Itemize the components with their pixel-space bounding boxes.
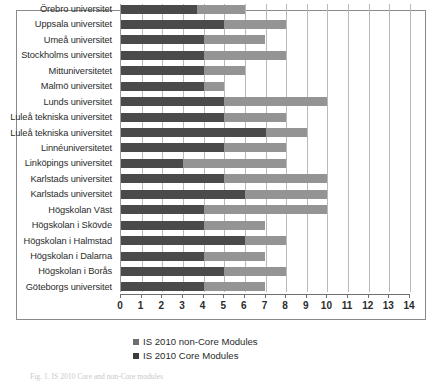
bar-row bbox=[121, 205, 409, 215]
bar-row bbox=[121, 220, 409, 230]
category-axis-labels: Örebro universitetUppsala universitetUme… bbox=[0, 4, 116, 292]
x-axis-tick bbox=[388, 294, 389, 298]
bar-segment-core bbox=[121, 20, 224, 29]
category-label: Malmö universitet bbox=[0, 81, 116, 91]
bar-segment-core bbox=[121, 282, 204, 291]
bar-segment-core bbox=[121, 205, 204, 214]
bar-segment-core bbox=[121, 221, 204, 230]
bar-segment-core bbox=[121, 5, 197, 14]
category-label: Örebro universitet bbox=[0, 4, 116, 14]
bar-row bbox=[121, 112, 409, 122]
category-label: Högskolan i Halmstad bbox=[0, 236, 116, 246]
x-axis-tick-label: 10 bbox=[321, 300, 332, 311]
bar-row bbox=[121, 128, 409, 138]
category-label: Högskolan Väst bbox=[0, 205, 116, 215]
legend-label: IS 2010 non-Core Modules bbox=[143, 336, 258, 347]
bar-segment-core bbox=[121, 190, 245, 199]
category-label: Mittuniversitetet bbox=[0, 66, 116, 76]
bar-segment-non-core bbox=[224, 20, 286, 29]
bar-segment-non-core bbox=[245, 190, 328, 199]
bar-segment-core bbox=[121, 128, 266, 137]
legend-label: IS 2010 Core Modules bbox=[143, 350, 238, 361]
bar-row bbox=[121, 4, 409, 14]
bar-row bbox=[121, 35, 409, 45]
category-label: Stockholms universitet bbox=[0, 50, 116, 60]
bar-segment-core bbox=[121, 82, 204, 91]
x-axis-tick-label: 8 bbox=[282, 300, 288, 311]
bar-row bbox=[121, 50, 409, 60]
bar-segment-core bbox=[121, 143, 224, 152]
bar-segment-core bbox=[121, 267, 224, 276]
bar-segment-core bbox=[121, 97, 224, 106]
category-label: Karlstads universitet bbox=[0, 174, 116, 184]
x-axis-tick-label: 13 bbox=[383, 300, 394, 311]
bar-segment-non-core bbox=[224, 174, 327, 183]
bar-row bbox=[121, 282, 409, 292]
category-label: Högskolan i Borås bbox=[0, 266, 116, 276]
x-axis: 01234567891011121314 bbox=[120, 294, 410, 320]
x-axis-tick-label: 4 bbox=[200, 300, 206, 311]
x-axis-tick bbox=[306, 294, 307, 298]
bar-row bbox=[121, 66, 409, 76]
category-label: Karlstads universitet bbox=[0, 189, 116, 199]
bar-segment-non-core bbox=[224, 113, 286, 122]
bar-segment-core bbox=[121, 252, 204, 261]
x-axis-tick bbox=[161, 294, 162, 298]
bar-segment-non-core bbox=[183, 159, 286, 168]
bar-segment-non-core bbox=[204, 252, 266, 261]
x-axis-tick-label: 7 bbox=[262, 300, 268, 311]
bar-segment-non-core bbox=[224, 143, 286, 152]
chart-legend: IS 2010 non-Core ModulesIS 2010 Core Mod… bbox=[133, 336, 258, 361]
x-axis-tick-label: 3 bbox=[179, 300, 185, 311]
x-axis-tick-label: 1 bbox=[138, 300, 144, 311]
plot-area bbox=[120, 4, 409, 292]
bar-row bbox=[121, 251, 409, 261]
legend-item: IS 2010 non-Core Modules bbox=[133, 336, 258, 347]
bar-segment-non-core bbox=[204, 221, 266, 230]
bar-row bbox=[121, 236, 409, 246]
x-axis-tick bbox=[203, 294, 204, 298]
figure-container: Örebro universitetUppsala universitetUme… bbox=[0, 0, 439, 384]
x-axis-tick bbox=[326, 294, 327, 298]
bar-segment-non-core bbox=[204, 66, 245, 75]
bar-segment-non-core bbox=[197, 5, 244, 14]
bar-rows bbox=[121, 4, 409, 292]
bar-row bbox=[121, 97, 409, 107]
bar-row bbox=[121, 266, 409, 276]
bar-row bbox=[121, 158, 409, 168]
category-label: Luleå tekniska universitet bbox=[0, 128, 116, 138]
bar-row bbox=[121, 189, 409, 199]
x-axis-tick bbox=[223, 294, 224, 298]
bar-segment-core bbox=[121, 159, 183, 168]
x-axis-tick bbox=[368, 294, 369, 298]
category-label: Lunds universitet bbox=[0, 97, 116, 107]
legend-item: IS 2010 Core Modules bbox=[133, 350, 258, 361]
bar-segment-core bbox=[121, 236, 245, 245]
bar-segment-core bbox=[121, 174, 224, 183]
x-axis-tick-label: 5 bbox=[220, 300, 226, 311]
figure-caption: Fig. 1. IS 2010 Core and non-Core module… bbox=[30, 372, 163, 381]
x-axis-tick bbox=[244, 294, 245, 298]
x-axis-tick bbox=[120, 294, 121, 298]
category-label: Luleå tekniska universitet bbox=[0, 112, 116, 122]
bar-segment-non-core bbox=[266, 128, 307, 137]
bar-row bbox=[121, 174, 409, 184]
x-axis-tick-label: 6 bbox=[241, 300, 247, 311]
bar-segment-core bbox=[121, 51, 204, 60]
x-axis-tick bbox=[285, 294, 286, 298]
bar-segment-non-core bbox=[204, 82, 225, 91]
category-label: Linnéuniversitetet bbox=[0, 143, 116, 153]
category-label: Högskolan i Skövde bbox=[0, 220, 116, 230]
legend-swatch-non-core bbox=[133, 339, 139, 345]
bar-segment-non-core bbox=[224, 267, 286, 276]
bar-segment-non-core bbox=[204, 205, 328, 214]
bar-segment-non-core bbox=[204, 282, 266, 291]
x-axis-tick-label: 0 bbox=[117, 300, 123, 311]
x-axis-tick bbox=[409, 294, 410, 298]
bar-segment-non-core bbox=[204, 51, 287, 60]
category-label: Uppsala universitet bbox=[0, 19, 116, 29]
x-axis-tick-label: 11 bbox=[342, 300, 353, 311]
bar-segment-core bbox=[121, 66, 204, 75]
x-axis-tick-label: 2 bbox=[159, 300, 165, 311]
bar-row bbox=[121, 143, 409, 153]
